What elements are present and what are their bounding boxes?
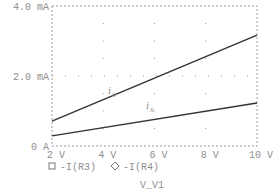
grid-dot bbox=[103, 41, 104, 42]
grid-dot bbox=[103, 111, 104, 112]
y-tick-label: 2.0 mA bbox=[13, 72, 49, 83]
grid bbox=[52, 23, 257, 129]
legend-label-r3: -I(R3) bbox=[60, 162, 96, 173]
grid-dot bbox=[154, 111, 155, 112]
grid-dot bbox=[205, 128, 206, 129]
grid-dot bbox=[103, 93, 104, 94]
x-tick-label: 2 V bbox=[47, 150, 65, 161]
plot-frame bbox=[52, 6, 257, 146]
grid-dot bbox=[154, 23, 155, 24]
grid-dot bbox=[154, 128, 155, 129]
x-tick-label: 8 V bbox=[201, 150, 219, 161]
diamond-icon bbox=[111, 162, 119, 170]
annotation-sub: x bbox=[149, 105, 154, 114]
y-axis-ticks: 0 A2.0 mA4.0 mA bbox=[13, 2, 49, 153]
legend: -I(R3) -I(R4) bbox=[49, 162, 159, 173]
x-axis-label: V_V1 bbox=[140, 180, 164, 191]
chart: 0 A2.0 mA4.0 mA 2 V4 V6 V8 V10 V ioix -I… bbox=[0, 0, 275, 196]
grid-dot bbox=[103, 23, 104, 24]
grid-dot bbox=[205, 93, 206, 94]
legend-label-r4: -I(R4) bbox=[123, 162, 159, 173]
annotation-ix: i bbox=[146, 99, 149, 111]
grid-dot bbox=[154, 41, 155, 42]
annotation-sub: o bbox=[112, 90, 116, 99]
grid-dot bbox=[205, 41, 206, 42]
series-lines bbox=[52, 35, 257, 136]
x-tick-label: 10 V bbox=[249, 150, 273, 161]
x-tick-label: 6 V bbox=[149, 150, 167, 161]
annotation-io: i bbox=[108, 84, 111, 96]
x-axis-ticks: 2 V4 V6 V8 V10 V bbox=[47, 150, 273, 161]
grid-dot bbox=[103, 58, 104, 59]
grid-dot bbox=[154, 93, 155, 94]
grid-dot bbox=[205, 58, 206, 59]
y-tick-label: 4.0 mA bbox=[13, 2, 49, 13]
x-tick-label: 4 V bbox=[98, 150, 116, 161]
grid-dot bbox=[154, 58, 155, 59]
grid-dot bbox=[205, 23, 206, 24]
square-icon bbox=[49, 163, 55, 169]
